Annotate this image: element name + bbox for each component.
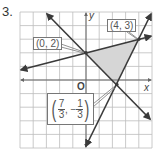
vertex-label-7-3-neg-1-3: ( 73 , − 13 )	[47, 93, 94, 125]
vertex-label-0-2: (0, 2)	[33, 37, 62, 50]
separator: , −	[65, 104, 76, 115]
y-fraction: 13	[76, 99, 83, 120]
left-paren: (	[52, 96, 57, 122]
y-axis-label: y	[89, 10, 94, 21]
x-axis-label: x	[144, 82, 149, 93]
right-paren: )	[85, 96, 90, 122]
vertex-label-4-3: (4, 3)	[107, 19, 136, 32]
origin-label: O	[77, 81, 85, 92]
x-fraction: 73	[58, 99, 65, 120]
